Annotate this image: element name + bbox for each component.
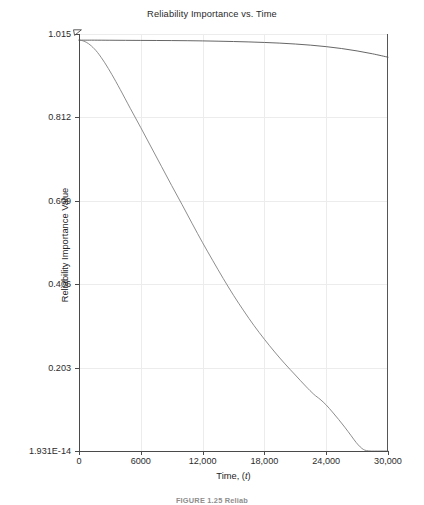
x-axis-line	[79, 451, 388, 452]
y-axis-line	[79, 34, 80, 452]
x-tick-mark	[388, 451, 389, 455]
x-tick-label: 18,000	[250, 456, 278, 466]
line-series-declining-importance	[79, 40, 388, 451]
y-tick-label: 0.203	[48, 363, 71, 373]
series-plot-lines	[79, 34, 388, 451]
y-tick-label: 0.406	[48, 279, 71, 289]
y-tick-label: 0.812	[48, 112, 71, 122]
x-tick-label: 24,000	[312, 456, 340, 466]
x-axis-label: Time, (t)	[79, 471, 388, 481]
y-tick-label: 0.609	[48, 196, 71, 206]
y-tick-label: 1.931E-14	[29, 446, 71, 456]
y-tick-label: 1.015	[48, 29, 71, 39]
x-tick-label: 12,000	[189, 456, 217, 466]
x-tick-label: 0	[76, 456, 81, 466]
x-axis-label-tail: )	[248, 471, 251, 481]
chart-title: Reliability Importance vs. Time	[0, 9, 424, 19]
plot-frame	[79, 34, 388, 451]
plot-area	[79, 34, 388, 451]
figure-container: Reliability Importance vs. Time Reliabil…	[0, 0, 424, 505]
figure-caption: FIGURE 1.25 Reliab	[0, 496, 424, 505]
x-tick-label: 6000	[131, 456, 151, 466]
line-series-high-importance	[79, 40, 388, 57]
x-axis-label-text: Time, (	[216, 471, 245, 481]
plot-right-border	[387, 34, 388, 452]
y-axis-label-container: Reliability Importance Value	[0, 130, 26, 360]
x-tick-label: 30,000	[374, 456, 402, 466]
